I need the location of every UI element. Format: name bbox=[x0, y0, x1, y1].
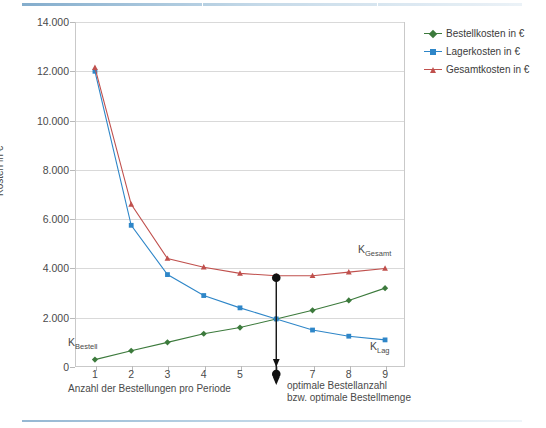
k-lag-label: KLag bbox=[370, 340, 390, 355]
data-point bbox=[92, 357, 98, 363]
data-point bbox=[128, 201, 134, 206]
legend-diamond-icon bbox=[424, 29, 442, 39]
data-point bbox=[310, 328, 315, 333]
data-point bbox=[201, 331, 207, 337]
legend-item-label: Lagerkosten in € bbox=[446, 46, 520, 57]
data-point bbox=[237, 324, 243, 330]
optimum-indicator bbox=[272, 274, 281, 385]
chart-legend: Bestellkosten in €Lagerkosten in €Gesamt… bbox=[424, 26, 529, 80]
k-gesamt-label: KGesamt bbox=[358, 243, 391, 258]
series-square bbox=[93, 69, 388, 342]
chart-page: 02.0004.0006.0008.00010.00012.00014.000 … bbox=[0, 0, 546, 428]
legend-item[interactable]: Bestellkosten in € bbox=[424, 26, 529, 41]
legend-item[interactable]: Lagerkosten in € bbox=[424, 44, 529, 59]
data-point bbox=[201, 293, 206, 298]
legend-square-icon bbox=[424, 47, 442, 57]
data-point bbox=[92, 64, 98, 69]
legend-item-label: Gesamtkosten in € bbox=[446, 64, 529, 75]
legend-item[interactable]: Gesamtkosten in € bbox=[424, 62, 529, 77]
k-lag-label-main: K bbox=[370, 340, 377, 352]
data-point bbox=[128, 348, 134, 354]
k-bestell-label-main: K bbox=[68, 336, 75, 348]
data-point bbox=[346, 334, 351, 339]
data-point bbox=[164, 339, 170, 345]
data-point bbox=[382, 285, 388, 291]
data-point bbox=[382, 265, 388, 270]
series-diamond bbox=[92, 285, 388, 363]
data-point bbox=[309, 307, 315, 313]
k-gesamt-label-sub: Gesamt bbox=[365, 249, 391, 258]
k-lag-label-sub: Lag bbox=[377, 346, 390, 355]
k-gesamt-label-main: K bbox=[358, 243, 365, 255]
k-bestell-label-sub: Bestell bbox=[75, 342, 98, 351]
data-point bbox=[129, 223, 134, 228]
k-bestell-label: KBestell bbox=[68, 336, 98, 351]
legend-item-label: Bestellkosten in € bbox=[446, 28, 524, 39]
data-point bbox=[238, 305, 243, 310]
data-point bbox=[165, 272, 170, 277]
data-point bbox=[346, 297, 352, 303]
series-triangle bbox=[92, 64, 388, 278]
legend-triangle-icon bbox=[424, 65, 442, 75]
